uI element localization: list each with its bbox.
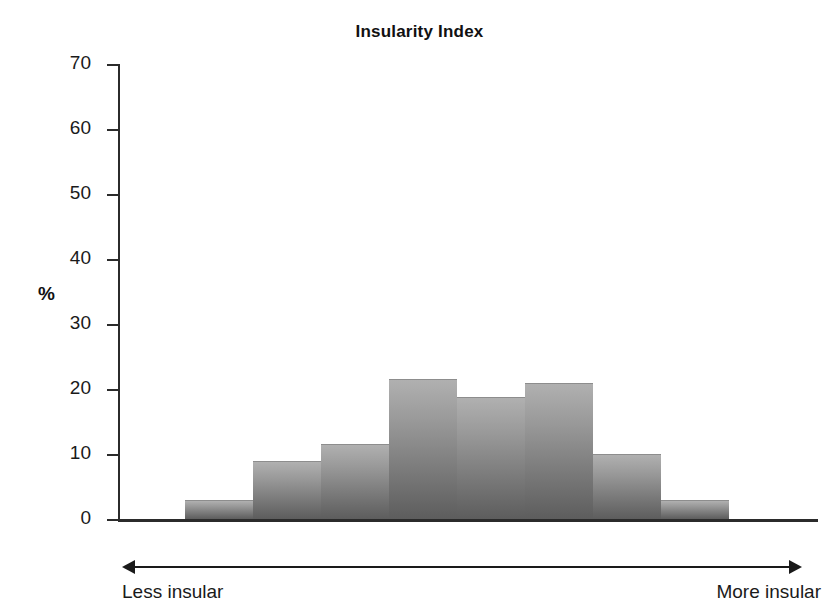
bar — [253, 461, 321, 520]
y-tick-label: 60 — [31, 117, 91, 139]
chart-container: Insularity Index % 010203040506070 Less … — [0, 0, 839, 614]
y-axis-label: % — [38, 283, 55, 305]
y-tick-label: 30 — [31, 312, 91, 334]
insularity-direction-arrow — [122, 560, 802, 574]
y-tick-label: 0 — [31, 507, 91, 529]
axis-end-label-more: More insular — [716, 581, 821, 603]
y-tick-label: 10 — [31, 442, 91, 464]
y-tick: 40 — [107, 259, 118, 261]
bar — [661, 500, 729, 520]
y-tick: 30 — [107, 324, 118, 326]
bar — [593, 454, 661, 519]
y-tick-label: 40 — [31, 247, 91, 269]
y-tick-label: 50 — [31, 182, 91, 204]
arrow-shaft — [131, 566, 793, 568]
arrow-right-icon — [789, 560, 802, 574]
bar — [525, 383, 593, 520]
axis-end-label-less: Less insular — [122, 581, 223, 603]
y-tick: 20 — [107, 389, 118, 391]
chart-title: Insularity Index — [0, 22, 839, 42]
y-tick: 50 — [107, 194, 118, 196]
plot-area: 010203040506070 — [118, 64, 818, 521]
y-tick: 60 — [107, 129, 118, 131]
bar — [457, 397, 525, 519]
y-tick: 10 — [107, 454, 118, 456]
y-tick: 70 — [107, 64, 118, 66]
bar — [185, 500, 253, 520]
y-tick-label: 20 — [31, 377, 91, 399]
y-tick-label: 70 — [31, 52, 91, 74]
y-tick: 0 — [107, 519, 118, 521]
bar — [321, 444, 389, 519]
bar — [389, 379, 457, 519]
bar-series — [118, 64, 818, 521]
